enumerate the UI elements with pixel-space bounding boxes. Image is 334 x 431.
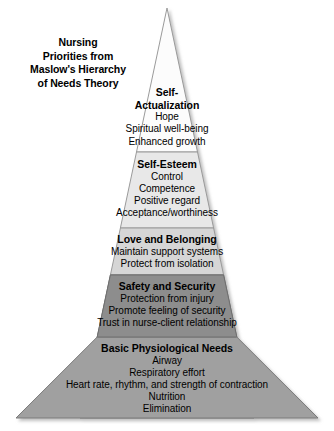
tier-item-protect-from-isolation: Protect from isolation (0, 258, 334, 270)
tier-item-promote-feeling-of-security: Promote feeling of security (0, 305, 334, 317)
tier-label-safety-and-security: Safety and Security Protection from inju… (0, 280, 334, 329)
title-line-3: Maslow's Hierarchy (8, 63, 148, 77)
tier-heading-self-actualization-line-1: Self- (0, 86, 334, 99)
tier-item-airway: Airway (0, 355, 334, 367)
tier-item-respiratory-effort: Respiratory effort (0, 367, 334, 379)
tier-item-hope: Hope (0, 111, 334, 123)
tier-label-self-esteem: Self-Esteem Control Competence Positive … (0, 158, 334, 219)
diagram-title: Nursing Priorities from Maslow's Hierarc… (8, 36, 148, 90)
tier-item-acceptance-worthiness: Acceptance/worthiness (0, 207, 334, 219)
tier-item-maintain-support-systems: Maintain support systems (0, 246, 334, 258)
tier-label-basic-physiological-needs: Basic Physiological Needs Airway Respira… (0, 342, 334, 416)
tier-heading-basic-physiological-needs: Basic Physiological Needs (0, 342, 334, 355)
tier-heading-love-and-belonging: Love and Belonging (0, 233, 334, 246)
tier-item-heart-rate-rhythm-strength: Heart rate, rhythm, and strength of cont… (0, 379, 334, 391)
tier-item-trust-in-nurse-client-relationship: Trust in nurse-client relationship (0, 317, 334, 329)
tier-label-love-and-belonging: Love and Belonging Maintain support syst… (0, 233, 334, 270)
tier-item-nutrition: Nutrition (0, 391, 334, 403)
tier-item-elimination: Elimination (0, 403, 334, 415)
title-line-2: Priorities from (8, 50, 148, 64)
title-line-1: Nursing (8, 36, 148, 50)
tier-item-competence: Competence (0, 183, 334, 195)
tier-item-positive-regard: Positive regard (0, 195, 334, 207)
tier-label-self-actualization: Self- Actualization Hope Spiritual well-… (0, 86, 334, 148)
maslow-pyramid-diagram: Nursing Priorities from Maslow's Hierarc… (0, 0, 334, 431)
tier-heading-self-esteem: Self-Esteem (0, 158, 334, 171)
tier-item-enhanced-growth: Enhanced growth (0, 136, 334, 148)
tier-item-spiritual-well-being: Spiritual well-being (0, 123, 334, 135)
tier-heading-safety-and-security: Safety and Security (0, 280, 334, 293)
tier-item-control: Control (0, 171, 334, 183)
tier-item-protection-from-injury: Protection from injury (0, 293, 334, 305)
tier-heading-self-actualization-line-2: Actualization (0, 99, 334, 112)
